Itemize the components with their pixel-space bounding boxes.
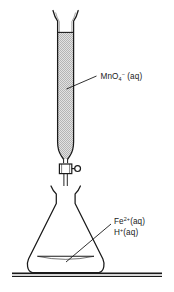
label-burette-species: MnO (101, 72, 119, 81)
label-fe-state: (aq) (130, 217, 145, 226)
label-flask-reagent-1: Fe2+(aq) (114, 216, 145, 226)
label-flask-reagent-2: H+(aq) (114, 227, 138, 237)
stopcock-knob[interactable] (75, 166, 81, 172)
titration-diagram: MnO4− (aq) Fe2+(aq) H+(aq) (0, 0, 174, 292)
label-fe-species: Fe (114, 217, 124, 226)
stopcock-barrel[interactable] (59, 164, 71, 174)
label-burette-reagent: MnO4− (aq) (101, 71, 143, 82)
bench-fill (12, 274, 162, 276)
stopcock[interactable] (59, 164, 80, 174)
titration-diagram-svg: MnO4− (aq) Fe2+(aq) H+(aq) (0, 0, 174, 292)
flask-right-outline (75, 186, 104, 273)
bench-surface (12, 273, 162, 276)
label-h-state: (aq) (123, 228, 138, 237)
label-burette-state: (aq) (125, 72, 143, 81)
flask-left-outline (27, 186, 56, 273)
burette (53, 11, 78, 164)
delivery-tube (64, 174, 67, 186)
conical-flask (27, 186, 104, 273)
